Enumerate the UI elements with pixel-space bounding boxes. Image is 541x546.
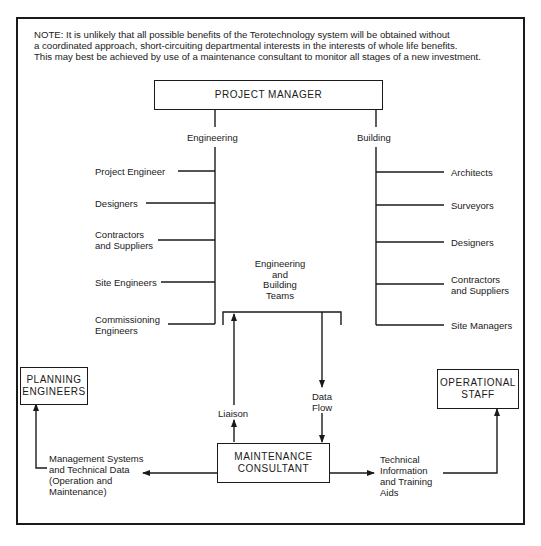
operational-staff-label: OPERATIONAL STAFF — [440, 377, 516, 401]
maintenance-consultant-box: MAINTENANCE CONSULTANT — [217, 443, 330, 483]
management-systems-label: Management Systems and Technical Data (O… — [49, 453, 144, 497]
maintenance-consultant-label: MAINTENANCE CONSULTANT — [234, 451, 312, 475]
building-branch-label: Building — [357, 132, 391, 143]
engineering-branch-label: Engineering — [187, 132, 238, 143]
engineering-item: Site Engineers — [95, 277, 157, 288]
teams-label: Engineering and Building Teams — [240, 259, 320, 301]
planning-engineers-label: PLANNING ENGINEERS — [22, 374, 85, 398]
technical-information-label: Technical Information and Training Aids — [380, 454, 432, 498]
data-flow-label: Data Flow — [306, 391, 338, 413]
building-item: Surveyors — [451, 200, 494, 211]
liaison-label: Liaison — [218, 408, 248, 419]
project-manager-box: PROJECT MANAGER — [154, 80, 383, 110]
building-item: Architects — [451, 167, 493, 178]
engineering-item: Designers — [95, 198, 138, 209]
building-item: Site Managers — [451, 320, 512, 331]
project-manager-label: PROJECT MANAGER — [215, 89, 322, 101]
engineering-item: Commissioning Engineers — [95, 314, 160, 336]
building-item: Designers — [451, 237, 494, 248]
engineering-item: Contractors and Suppliers — [95, 229, 153, 251]
planning-engineers-box: PLANNING ENGINEERS — [20, 367, 88, 405]
building-item: Contractors and Suppliers — [451, 274, 509, 296]
operational-staff-box: OPERATIONAL STAFF — [437, 369, 519, 409]
engineering-item: Project Engineer — [95, 166, 165, 177]
